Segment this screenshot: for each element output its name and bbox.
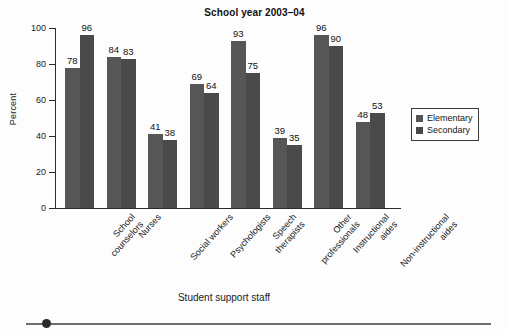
bar-secondary	[370, 113, 385, 208]
y-axis-tick-label-wrap: 100	[14, 24, 46, 33]
bar-elementary	[65, 68, 80, 208]
legend-swatch-icon	[416, 127, 423, 134]
slider-handle[interactable]	[42, 319, 51, 328]
bar-secondary	[246, 73, 261, 208]
bar-secondary	[329, 46, 344, 208]
chart-legend: ElementarySecondary	[411, 108, 479, 141]
y-axis-tick-label: 40	[16, 132, 46, 141]
plot-area: 78968483413869649375393596904853	[55, 28, 400, 208]
x-axis-category-label: Instructionalaides	[351, 212, 399, 262]
bar-value-label: 96	[310, 23, 333, 33]
bar-secondary	[121, 59, 136, 208]
y-axis-tick	[49, 208, 55, 209]
legend-swatch-icon	[416, 115, 423, 122]
y-axis-tick-label: 80	[16, 60, 46, 69]
bar-value-label: 35	[283, 133, 306, 143]
x-axis-category-label: Non-instructionalaides	[398, 212, 459, 276]
legend-item-elementary[interactable]: Elementary	[416, 112, 473, 124]
bar-elementary	[273, 138, 288, 208]
y-axis-tick-label-wrap: 80	[14, 60, 46, 69]
x-axis-title: Student support staff	[0, 292, 448, 303]
bar-elementary	[148, 134, 163, 208]
bar-value-label: 64	[200, 81, 223, 91]
horizontal-scroll-slider[interactable]	[26, 318, 491, 330]
bar-secondary	[204, 93, 219, 208]
bar-value-label: 53	[366, 101, 389, 111]
chart-figure: School year 2003–04 Percent 020406080100…	[0, 0, 509, 330]
legend-item-secondary[interactable]: Secondary	[416, 124, 473, 136]
y-axis-tick-label: 100	[16, 24, 46, 33]
x-axis-line	[55, 208, 401, 209]
x-axis-category-label: Otherprofessionals	[311, 212, 362, 265]
bar-value-label: 96	[76, 23, 99, 33]
bar-value-label: 38	[159, 128, 182, 138]
y-axis-tick-label-wrap: 40	[14, 132, 46, 141]
legend-label: Elementary	[427, 113, 473, 123]
y-axis-tick-label-wrap: 20	[14, 168, 46, 177]
chart-title: School year 2003–04	[0, 7, 509, 18]
bar-secondary	[163, 140, 178, 208]
bar-elementary	[190, 84, 205, 208]
y-axis-tick-label-wrap: 0	[14, 204, 46, 213]
bar-value-label: 90	[325, 34, 348, 44]
bar-value-label: 75	[242, 61, 265, 71]
y-axis-tick-label: 20	[16, 168, 46, 177]
bar-elementary	[356, 122, 371, 208]
bar-value-label: 93	[227, 29, 250, 39]
x-axis-category-label: Social workers	[188, 212, 235, 263]
bar-elementary	[314, 35, 329, 208]
bar-secondary	[80, 35, 95, 208]
slider-track[interactable]	[26, 323, 491, 325]
bar-value-label: 83	[117, 47, 140, 57]
legend-label: Secondary	[427, 125, 470, 135]
y-axis-tick-label-wrap: 60	[14, 96, 46, 105]
bar-secondary	[287, 145, 302, 208]
bar-elementary	[107, 57, 122, 208]
y-axis-tick-label: 60	[16, 96, 46, 105]
y-axis-tick-label: 0	[16, 204, 46, 213]
